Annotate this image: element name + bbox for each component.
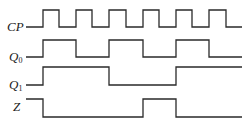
- q1-label: Q1: [9, 77, 22, 93]
- q1-waveform: [26, 67, 242, 85]
- q0-label: Q0: [9, 49, 22, 65]
- signal-z: Z: [13, 99, 242, 117]
- signal-q1: Q1: [9, 67, 242, 93]
- signal-q0: Q0: [9, 40, 242, 65]
- z-waveform: [26, 99, 242, 117]
- q0-waveform: [26, 40, 242, 57]
- cp-label: CP: [7, 19, 24, 34]
- z-label: Z: [13, 99, 21, 114]
- cp-waveform: [26, 10, 242, 27]
- signal-cp: CP: [7, 10, 242, 34]
- timing-diagram: CP Q0 Q1 Z: [0, 0, 249, 126]
